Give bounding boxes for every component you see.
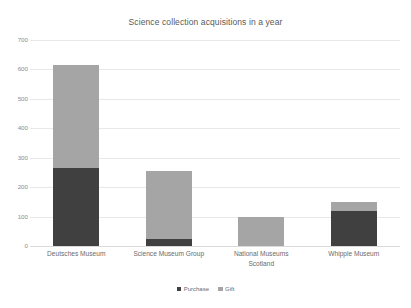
bar-stack[interactable]	[146, 171, 192, 246]
x-tick-label-line: Whipple Museum	[308, 249, 401, 259]
chart-title: Science collection acquisitions in a yea…	[0, 17, 411, 27]
y-tick-label-100: 100	[6, 214, 28, 220]
legend-item[interactable]: Gift	[218, 286, 234, 292]
bar-segment-gift[interactable]	[146, 171, 192, 239]
bar-segment-purchase[interactable]	[53, 168, 99, 246]
bar-group[interactable]	[308, 40, 401, 246]
axis-baseline	[30, 246, 400, 247]
y-tick-label-400: 400	[6, 125, 28, 131]
bar-segment-purchase[interactable]	[331, 211, 377, 246]
bar-segment-gift[interactable]	[53, 65, 99, 168]
legend-swatch-icon	[177, 287, 182, 292]
chart-legend: PurchaseGift	[0, 286, 411, 292]
bar-group[interactable]	[123, 40, 216, 246]
y-tick-label-600: 600	[6, 66, 28, 72]
y-tick-label-300: 300	[6, 155, 28, 161]
y-tick-label-200: 200	[6, 184, 28, 190]
y-axis: 0100200300400500600700	[4, 40, 28, 246]
chart-container: Science collection acquisitions in a yea…	[0, 0, 411, 308]
legend-label: Gift	[225, 286, 234, 292]
x-axis: Deutsches MuseumScience Museum GroupNati…	[30, 249, 400, 279]
legend-item[interactable]: Purchase	[177, 286, 209, 292]
legend-swatch-icon	[218, 287, 223, 292]
bar-segment-purchase[interactable]	[146, 239, 192, 246]
legend-label: Purchase	[184, 286, 209, 292]
x-tick-label: Whipple Museum	[308, 249, 401, 259]
x-tick-label-line: Scotland	[215, 259, 308, 269]
x-tick-label-line: Deutsches Museum	[30, 249, 123, 259]
bar-stack[interactable]	[238, 217, 284, 246]
bar-group[interactable]	[215, 40, 308, 246]
x-tick-label: Deutsches Museum	[30, 249, 123, 259]
bar-segment-gift[interactable]	[238, 217, 284, 246]
bar-stack[interactable]	[53, 65, 99, 246]
y-tick-label-700: 700	[6, 37, 28, 43]
y-tick-label-0: 0	[6, 243, 28, 249]
bar-segment-gift[interactable]	[331, 202, 377, 211]
x-tick-label-line: National Museums	[215, 249, 308, 259]
bars-layer	[30, 40, 400, 246]
bar-stack[interactable]	[331, 202, 377, 246]
y-tick-label-500: 500	[6, 96, 28, 102]
x-tick-label-line: Science Museum Group	[123, 249, 216, 259]
bar-group[interactable]	[30, 40, 123, 246]
x-tick-label: National MuseumsScotland	[215, 249, 308, 268]
x-tick-label: Science Museum Group	[123, 249, 216, 259]
